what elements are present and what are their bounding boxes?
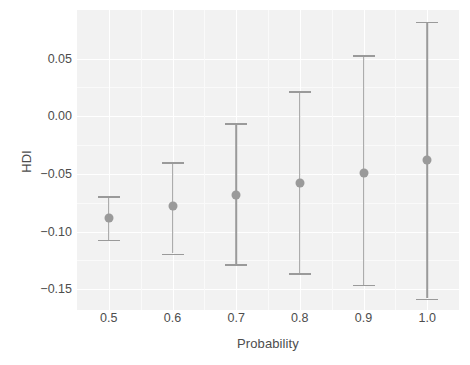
- x-axis-tick-label: 0.5: [100, 311, 117, 325]
- x-axis-tick-label: 0.7: [227, 311, 244, 325]
- x-axis-tick-label: 0.6: [164, 311, 181, 325]
- gridline-minor-vertical: [268, 10, 269, 310]
- error-bar-chart: 0.050.00−0.05−0.10−0.15 0.50.60.70.80.91…: [0, 0, 470, 365]
- gridline-minor-vertical: [204, 10, 205, 310]
- y-axis-tick-label: −0.10: [30, 225, 72, 239]
- error-bar-cap-lower: [353, 285, 375, 287]
- error-bar-cap-lower: [289, 273, 311, 275]
- gridline-major-vertical: [109, 10, 110, 310]
- error-bar-cap-upper: [353, 55, 375, 57]
- data-point: [295, 179, 304, 188]
- y-axis-tick-label: 0.00: [30, 109, 72, 123]
- data-point: [232, 190, 241, 199]
- data-point: [168, 202, 177, 211]
- x-axis-title: Probability: [77, 336, 459, 351]
- y-axis-tick-label: −0.05: [30, 167, 72, 181]
- data-point: [359, 168, 368, 177]
- data-point: [104, 213, 113, 222]
- error-bar-cap-lower: [98, 240, 120, 242]
- y-axis-tick-label: −0.15: [30, 282, 72, 296]
- error-bar-cap-lower: [162, 254, 184, 256]
- gridline-minor-vertical: [332, 10, 333, 310]
- error-bar-cap-lower: [416, 299, 438, 301]
- gridline-major-vertical: [173, 10, 174, 310]
- x-axis-tick-labels: 0.50.60.70.80.91.0: [0, 311, 470, 333]
- error-bar-cap-upper: [162, 162, 184, 164]
- error-bar-cap-upper: [416, 22, 438, 24]
- gridline-minor-vertical: [141, 10, 142, 310]
- error-bar-cap-lower: [225, 264, 247, 266]
- y-axis-tick-label: 0.05: [30, 52, 72, 66]
- data-point: [423, 156, 432, 165]
- plot-panel: [77, 10, 459, 310]
- error-bar-cap-upper: [289, 91, 311, 93]
- x-axis-tick-label: 0.9: [355, 311, 372, 325]
- error-bar-cap-upper: [98, 196, 120, 198]
- y-axis-title: HDI: [19, 132, 34, 192]
- x-axis-tick-label: 0.8: [291, 311, 308, 325]
- gridline-minor-vertical: [395, 10, 396, 310]
- error-bar-cap-upper: [225, 123, 247, 125]
- x-axis-tick-label: 1.0: [418, 311, 435, 325]
